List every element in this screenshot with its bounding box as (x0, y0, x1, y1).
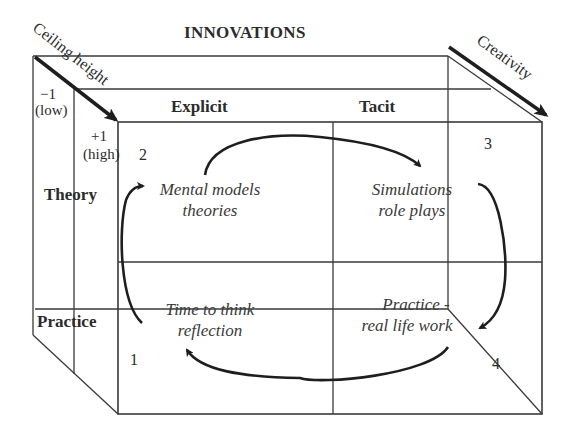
cell-practice-real-life-line2: real life work (344, 315, 470, 336)
cell-time-to-think-line1: Time to think (146, 299, 274, 320)
front-face (118, 122, 542, 414)
row-header-practice: Practice (37, 313, 96, 330)
cell-simulations-line2: role plays (356, 200, 468, 221)
corner-number-1: 1 (130, 352, 138, 368)
depth-edge-bottom-left (33, 335, 118, 414)
corner-number-3: 3 (484, 136, 492, 152)
ceiling-low-value: −1 (40, 86, 56, 103)
arrow-practice-to-reflection (187, 347, 448, 380)
cell-simulations: Simulations role plays (356, 179, 468, 221)
innovation-cube-diagram: INNOVATIONS Ceiling height −1 (low) +1 (… (0, 0, 568, 435)
ceiling-high-value: +1 (91, 128, 107, 145)
cell-practice-real-life-line1: Practice - (344, 294, 470, 315)
column-header-explicit: Explicit (171, 98, 228, 115)
row-header-theory: Theory (44, 186, 97, 203)
cell-practice-real-life: Practice - real life work (344, 294, 470, 336)
diagram-title: INNOVATIONS (184, 24, 306, 41)
corner-number-2: 2 (139, 147, 147, 163)
corner-number-4: 4 (492, 356, 500, 372)
arrow-simulations-to-practice (478, 184, 505, 328)
ceiling-low-label: (low) (35, 102, 68, 119)
cell-mental-models-line1: Mental models (146, 179, 274, 200)
cell-time-to-think: Time to think reflection (146, 299, 274, 341)
cell-simulations-line1: Simulations (356, 179, 468, 200)
cell-mental-models: Mental models theories (146, 179, 274, 221)
arrow-mental-to-simulations (205, 136, 420, 175)
column-header-tacit: Tacit (359, 98, 395, 115)
cell-mental-models-line2: theories (146, 200, 274, 221)
ceiling-high-label: (high) (83, 146, 120, 163)
arrow-reflection-to-mental (122, 186, 143, 323)
cell-time-to-think-line2: reflection (146, 320, 274, 341)
